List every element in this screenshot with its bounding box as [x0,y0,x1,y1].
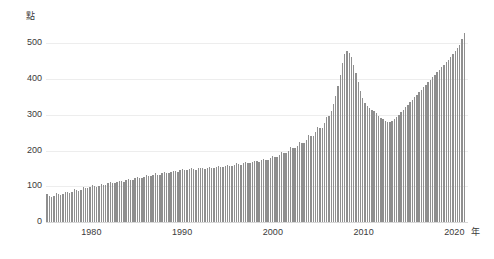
bar [85,188,86,222]
bar [218,166,219,222]
bar [398,115,399,222]
bar [258,162,259,222]
bar [349,53,350,222]
bar [152,175,153,222]
bar [227,165,228,222]
bar [80,190,81,223]
bar [240,165,241,223]
bar [267,160,268,222]
bar [331,111,332,222]
bar [150,176,151,222]
bar [351,57,352,222]
y-tick-label: 500 [2,38,42,47]
bar [67,192,68,222]
bar [168,173,169,222]
bar [283,153,284,222]
bar [315,132,316,222]
bar [243,163,244,222]
bar [225,166,226,222]
bar [216,167,217,222]
bar [98,186,99,222]
bar [265,160,266,223]
bar [58,194,59,222]
bar [430,80,431,223]
bar [161,173,162,222]
bar [112,183,113,222]
bar [319,128,320,222]
bar-chart: 點 0100200300400500 19801990200020102020 … [0,0,494,259]
bar [301,143,302,222]
bar [71,192,72,222]
bar [446,62,447,222]
bar [452,54,453,222]
bar [367,106,368,222]
y-tick-label: 300 [2,110,42,119]
bar [200,168,201,222]
bar [344,54,345,222]
bar [148,176,149,222]
x-tick-label: 1980 [81,227,101,237]
bar [211,168,212,222]
bar [157,175,158,223]
bar [256,161,257,222]
bar [455,51,456,222]
bar [76,190,77,222]
bar [400,112,401,222]
bar [409,102,410,222]
bar [373,111,374,222]
bar [346,51,347,222]
bar [270,158,271,222]
bar [464,33,465,222]
bar [376,113,377,222]
bar [364,103,365,222]
bar [326,117,327,222]
bar [202,168,203,222]
bar [313,136,314,222]
bar [333,104,334,222]
bar [382,119,383,222]
bar [391,121,392,222]
bar [175,171,176,222]
bar [292,148,293,222]
bar [322,128,323,222]
bar [299,142,300,222]
bar [238,164,239,222]
bar [83,187,84,222]
bar [369,108,370,222]
bar [436,72,437,222]
bar-series [46,22,468,222]
bar [177,172,178,222]
x-tick-label: 2010 [354,227,374,237]
bar [380,118,381,222]
bar [272,156,273,222]
bar [186,170,187,222]
bar [394,119,395,222]
x-tick-label: 2020 [444,227,464,237]
bar [371,110,372,222]
bar [128,179,129,222]
bar [405,107,406,222]
bar [189,169,190,222]
bar [234,165,235,223]
bar [448,60,449,223]
bar [164,172,165,222]
bar [89,187,90,222]
bar [310,136,311,222]
bar [139,178,140,222]
bar [204,169,205,222]
bar [263,159,264,222]
y-tick-label: 200 [2,146,42,155]
y-tick-label: 0 [2,217,42,226]
bar [116,182,117,222]
bar [288,151,289,222]
bar [385,121,386,222]
bar [207,168,208,222]
bar [60,195,61,222]
bar [387,122,388,222]
bar [378,116,379,222]
bar [155,173,156,222]
bar [434,75,435,223]
bar [49,196,50,222]
bar [220,167,221,222]
bar [340,75,341,222]
